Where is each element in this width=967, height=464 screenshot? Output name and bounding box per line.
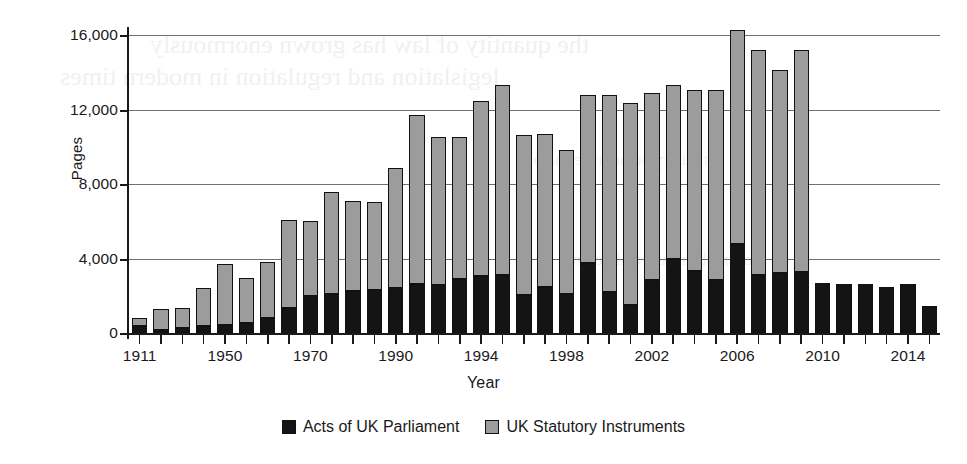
x-axis-tick-mark: [160, 335, 162, 344]
bar-segment-acts: [281, 308, 296, 333]
x-axis-tick-mark: [331, 335, 333, 344]
y-axis-tick-label: 12,000: [44, 102, 118, 118]
bar-stack: [516, 135, 531, 333]
y-axis-tick-mark: [120, 184, 129, 186]
x-axis-tick-label: 1994: [464, 347, 499, 365]
bar-segment-acts: [623, 305, 638, 333]
gridline: [129, 184, 940, 185]
x-axis-tick-mark: [630, 335, 632, 344]
bar-segment-acts: [666, 259, 681, 334]
bar-segment-statutory-instruments: [303, 221, 318, 296]
chart-figure: Pages 04,0008,00012,00016,000 1911195019…: [0, 0, 967, 464]
x-axis-tick-mark: [694, 335, 696, 344]
bar-segment-acts: [303, 296, 318, 333]
x-axis-tick-label: 1990: [378, 347, 413, 365]
bar-segment-acts: [772, 273, 787, 333]
y-axis-tick-label: 4,000: [44, 251, 118, 267]
bar-segment-statutory-instruments: [260, 262, 275, 318]
x-axis-tick-label: 2006: [720, 347, 755, 365]
y-axis-tick-mark: [120, 259, 129, 261]
x-axis-tick-mark: [203, 335, 205, 344]
bar-segment-acts: [175, 328, 190, 333]
x-axis-tick-mark: [672, 335, 674, 344]
bar-segment-acts: [602, 292, 617, 333]
x-axis-tick-mark: [608, 335, 610, 344]
bar-segment-acts: [409, 284, 424, 333]
bar-segment-acts: [324, 294, 339, 333]
x-axis-tick-mark: [288, 335, 290, 344]
bar-segment-statutory-instruments: [153, 309, 168, 329]
bar-segment-statutory-instruments: [687, 90, 702, 271]
bar-segment-statutory-instruments: [623, 103, 638, 305]
bar-stack: [260, 262, 275, 333]
y-axis-tick-label: 0: [44, 325, 118, 341]
bar-segment-acts: [217, 325, 232, 333]
bar-segment-statutory-instruments: [644, 93, 659, 280]
bar-segment-acts: [345, 291, 360, 333]
x-axis-tick-mark: [843, 335, 845, 344]
x-axis-tick-mark: [822, 335, 824, 344]
bar-segment-statutory-instruments: [217, 264, 232, 325]
bar-segment-statutory-instruments: [324, 192, 339, 294]
x-axis-tick-mark: [374, 335, 376, 344]
bar-stack: [708, 90, 723, 333]
bar-segment-acts: [580, 263, 595, 333]
bar-stack: [239, 278, 254, 333]
bar-segment-statutory-instruments: [431, 137, 446, 285]
bar-segment-acts: [431, 285, 446, 333]
bar-stack: [644, 93, 659, 333]
bar-stack: [388, 168, 403, 333]
bar-stack: [153, 309, 168, 333]
x-axis-tick-mark: [651, 335, 653, 344]
bar-stack: [217, 264, 232, 333]
x-axis-tick-mark: [459, 335, 461, 344]
bar-segment-statutory-instruments: [666, 85, 681, 258]
bar-segment-statutory-instruments: [388, 168, 403, 288]
x-axis-tick-mark: [865, 335, 867, 344]
x-axis-tick-mark: [310, 335, 312, 344]
x-axis-tick-mark: [139, 335, 141, 344]
bar-segment-acts: [260, 318, 275, 333]
bar-segment-statutory-instruments: [196, 288, 211, 325]
y-axis-tick-label: 8,000: [44, 176, 118, 192]
y-axis-line: [127, 27, 129, 339]
bar-segment-acts: [879, 287, 894, 333]
x-axis-tick-label: 2002: [634, 347, 669, 365]
bar-segment-statutory-instruments: [708, 90, 723, 280]
bar-segment-statutory-instruments: [794, 50, 809, 272]
x-axis-title: Year: [0, 374, 967, 392]
bar-stack: [666, 85, 681, 333]
x-axis-tick-mark: [886, 335, 888, 344]
x-axis-tick-mark: [352, 335, 354, 344]
bar-stack: [196, 288, 211, 333]
bar-segment-statutory-instruments: [367, 202, 382, 290]
x-axis-tick-label: 1998: [549, 347, 584, 365]
bar-segment-acts: [153, 330, 168, 333]
x-axis-tick-mark: [246, 335, 248, 344]
bar-segment-statutory-instruments: [772, 70, 787, 273]
gridline: [129, 110, 940, 111]
bar-stack: [559, 150, 574, 333]
bar-segment-acts: [815, 283, 830, 333]
bar-stack: [580, 95, 595, 333]
x-axis-tick-mark: [736, 335, 738, 344]
bar-segment-acts: [132, 326, 147, 333]
bar-stack: [473, 101, 488, 333]
bar-segment-acts: [473, 276, 488, 333]
bar-segment-statutory-instruments: [602, 95, 617, 292]
x-axis-tick-mark: [800, 335, 802, 344]
bar-stack: [623, 103, 638, 333]
bar-segment-acts: [516, 295, 531, 333]
x-axis-tick-mark: [182, 335, 184, 344]
bar-stack: [303, 221, 318, 333]
bar-segment-acts: [495, 275, 510, 333]
y-axis-tick-mark: [120, 110, 129, 112]
bar-segment-acts: [730, 244, 745, 333]
bar-segment-statutory-instruments: [473, 101, 488, 276]
bar-stack: [794, 50, 809, 333]
bar-stack: [879, 287, 894, 333]
bar-stack: [367, 202, 382, 333]
x-axis-tick-mark: [779, 335, 781, 344]
bar-stack: [751, 50, 766, 333]
x-axis-line: [127, 333, 940, 335]
